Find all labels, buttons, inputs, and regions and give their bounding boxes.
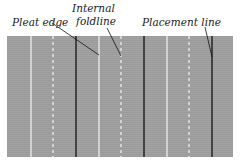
- internal-foldline-label-line2: foldline: [76, 16, 116, 27]
- internal-foldline-label-line1: Internal: [72, 3, 115, 14]
- internal-foldlines: [53, 36, 189, 157]
- pleat-edge-lines: [31, 36, 167, 157]
- placement-lines: [76, 36, 212, 157]
- placement-line-label: Placement line: [142, 17, 221, 28]
- pleat-edge-label: Pleat edge: [12, 17, 68, 28]
